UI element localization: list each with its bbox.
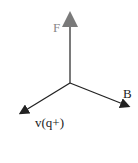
magnetic-field-vector-b — [70, 83, 128, 106]
force-diagram: F B v(q+) — [0, 0, 138, 163]
velocity-vector-v — [21, 83, 70, 113]
label-v: v(q+) — [35, 115, 64, 130]
label-b: B — [123, 86, 132, 101]
label-f: F — [53, 20, 60, 35]
